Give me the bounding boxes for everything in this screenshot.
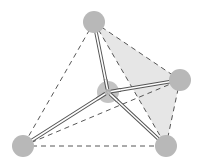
- bond-inner: [23, 92, 108, 146]
- atom-top: [83, 11, 105, 33]
- atom-bottom-right: [155, 135, 177, 157]
- tetrahedral-molecule-diagram: [0, 0, 201, 168]
- molecule-svg: [0, 0, 201, 168]
- bond-center-bottom-left: [23, 92, 108, 146]
- atom-bottom-left: [12, 135, 34, 157]
- dashed-edge-top-bottom-left: [23, 22, 94, 146]
- atom-right: [169, 69, 191, 91]
